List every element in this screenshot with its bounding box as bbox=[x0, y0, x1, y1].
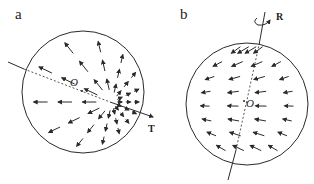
flow-arrow bbox=[217, 145, 226, 150]
panel-a: a O T bbox=[8, 6, 155, 153]
flow-arrow bbox=[116, 118, 117, 124]
flow-arrow bbox=[278, 132, 287, 136]
flow-arrow bbox=[251, 62, 262, 67]
sphere-a bbox=[22, 31, 144, 153]
flow-arrow bbox=[117, 91, 121, 96]
flow-arrow bbox=[105, 124, 107, 131]
flow-arrow bbox=[77, 138, 83, 146]
diagram-canvas: a O T b O R bbox=[0, 0, 314, 184]
flow-arrow bbox=[233, 145, 244, 150]
flow-arrow bbox=[117, 97, 122, 99]
flow-arrow bbox=[131, 72, 135, 77]
flow-arrow bbox=[134, 89, 139, 91]
flow-arrow bbox=[118, 69, 120, 77]
flow-arrow bbox=[84, 89, 97, 95]
flow-arrow bbox=[39, 67, 52, 73]
field-a bbox=[34, 41, 139, 146]
flow-arrow bbox=[121, 113, 124, 117]
flow-arrow bbox=[228, 91, 239, 92]
flow-arrow bbox=[284, 91, 293, 92]
flow-arrow bbox=[232, 62, 243, 67]
axis-a-dashed bbox=[24, 69, 110, 102]
flow-arrow bbox=[88, 125, 94, 133]
panel-a-label: a bbox=[15, 6, 22, 22]
flow-arrow bbox=[88, 108, 99, 113]
flow-arrow bbox=[68, 118, 79, 123]
flow-arrow bbox=[255, 119, 266, 121]
flow-arrow bbox=[207, 132, 216, 136]
flow-arrow bbox=[113, 108, 114, 114]
flow-arrow bbox=[255, 91, 266, 92]
flow-arrow bbox=[280, 76, 289, 79]
flow-arrow bbox=[201, 91, 210, 92]
flow-arrow bbox=[254, 76, 265, 79]
flow-arrow bbox=[107, 79, 109, 90]
flow-arrow bbox=[80, 61, 88, 72]
flow-arrow bbox=[99, 111, 105, 119]
flow-arrow bbox=[213, 62, 222, 67]
flow-arrow bbox=[250, 145, 261, 150]
flow-arrow bbox=[283, 119, 292, 121]
flow-arrow bbox=[229, 76, 240, 79]
flow-arrow bbox=[118, 128, 119, 134]
flow-arrow bbox=[253, 132, 264, 136]
flow-arrow bbox=[98, 41, 100, 52]
flow-arrow bbox=[121, 55, 123, 63]
flow-arrow bbox=[205, 76, 214, 79]
origin-b-label: O bbox=[246, 97, 254, 109]
axis-b-lower bbox=[228, 150, 236, 180]
flow-arrow bbox=[230, 132, 241, 136]
flow-arrow bbox=[115, 106, 118, 110]
flow-arrow bbox=[126, 119, 129, 123]
flow-arrow bbox=[94, 80, 102, 91]
origin-b-point bbox=[243, 100, 245, 102]
flow-arrow bbox=[268, 145, 277, 150]
origin-a-point bbox=[81, 90, 83, 92]
flow-arrow bbox=[272, 62, 281, 67]
flow-arrow bbox=[132, 112, 136, 114]
axis-a-T-arrow bbox=[110, 102, 153, 117]
panel-b-label: b bbox=[180, 6, 188, 22]
vector-R-label: R bbox=[276, 11, 284, 22]
flow-arrow bbox=[102, 137, 104, 144]
flow-arrow bbox=[126, 93, 131, 95]
flow-arrow bbox=[202, 119, 211, 121]
flow-arrow bbox=[114, 84, 116, 92]
flow-arrow bbox=[102, 60, 104, 71]
vector-T-label: T bbox=[148, 123, 155, 134]
axis-b-upper bbox=[259, 12, 265, 45]
axis-a-outer bbox=[8, 62, 24, 69]
flow-arrow bbox=[228, 119, 239, 121]
flow-arrow bbox=[108, 110, 110, 117]
flow-arrow bbox=[49, 127, 60, 132]
flow-arrow bbox=[124, 82, 128, 87]
panel-b: b O R bbox=[180, 6, 308, 180]
flow-arrow bbox=[65, 43, 73, 54]
